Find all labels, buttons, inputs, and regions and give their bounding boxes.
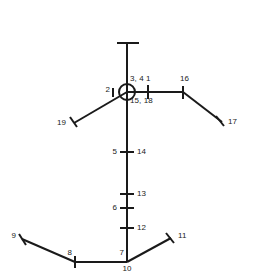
label-15-18: 15, 18 (130, 96, 153, 105)
label-19: 19 (57, 118, 66, 127)
label-16: 16 (180, 74, 189, 83)
label-14: 14 (137, 147, 146, 156)
segment-group (19, 43, 224, 268)
label-2: 2 (105, 85, 110, 94)
label-8: 8 (67, 248, 72, 257)
label-13: 13 (137, 189, 146, 198)
skeleton-figure-diagram: 3, 41215, 18161719514136129871011 (0, 0, 253, 275)
label-5: 5 (112, 147, 117, 156)
label-1: 1 (146, 74, 151, 83)
left-arm (74, 92, 127, 123)
label-17: 17 (228, 117, 237, 126)
right-hand-tick (216, 116, 224, 126)
label-10: 10 (122, 264, 131, 273)
label-11: 11 (178, 231, 187, 240)
right-foot-tick (166, 233, 174, 243)
label-7: 7 (119, 248, 124, 257)
label-12: 12 (137, 223, 146, 232)
right-leg (127, 238, 171, 262)
label-3-4: 3, 4 (130, 74, 144, 83)
skeleton-vector-graphic (0, 0, 253, 275)
label-6: 6 (112, 203, 117, 212)
label-9: 9 (11, 231, 16, 240)
